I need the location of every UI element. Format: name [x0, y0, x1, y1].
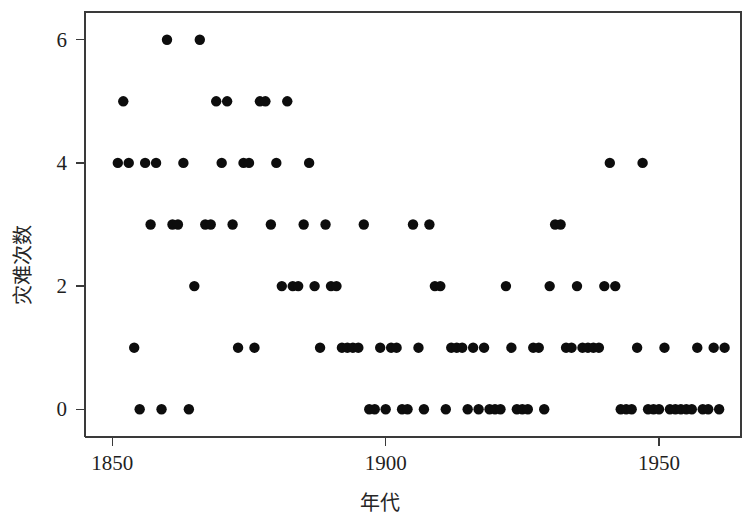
data-point	[189, 281, 199, 291]
y-axis-title: 灾难次数	[11, 225, 35, 305]
data-point	[605, 158, 615, 168]
data-point	[692, 342, 702, 352]
data-point	[506, 342, 516, 352]
data-point	[277, 281, 287, 291]
data-point	[714, 404, 724, 414]
data-point	[495, 404, 505, 414]
data-point	[539, 404, 549, 414]
data-point	[419, 404, 429, 414]
y-tick-label: 6	[57, 28, 68, 52]
data-point	[441, 404, 451, 414]
data-point	[402, 404, 412, 414]
data-point	[375, 342, 385, 352]
plot-canvas: 185019001950 0246 年代 灾难次数	[0, 0, 751, 518]
data-point	[435, 281, 445, 291]
data-point	[719, 342, 729, 352]
data-point	[227, 219, 237, 229]
data-point	[413, 342, 423, 352]
data-point	[320, 219, 330, 229]
data-point	[173, 219, 183, 229]
data-point	[555, 219, 565, 229]
y-tick-label: 2	[57, 274, 68, 298]
data-point	[473, 404, 483, 414]
data-point	[424, 219, 434, 229]
x-axis-ticks	[112, 437, 659, 446]
x-axis-tick-labels: 185019001950	[91, 451, 680, 475]
data-points-layer	[113, 35, 730, 415]
data-point	[594, 342, 604, 352]
data-point	[124, 158, 134, 168]
data-point	[293, 281, 303, 291]
data-point	[129, 342, 139, 352]
data-point	[353, 342, 363, 352]
data-point	[523, 404, 533, 414]
data-point	[216, 158, 226, 168]
data-point	[708, 342, 718, 352]
data-point	[298, 219, 308, 229]
data-point	[462, 404, 472, 414]
data-point	[659, 342, 669, 352]
data-point	[304, 158, 314, 168]
data-point	[457, 342, 467, 352]
data-point	[566, 342, 576, 352]
data-point	[244, 158, 254, 168]
data-point	[654, 404, 664, 414]
data-point	[391, 342, 401, 352]
x-tick-label: 1850	[91, 451, 133, 475]
data-point	[599, 281, 609, 291]
data-point	[145, 219, 155, 229]
data-point	[178, 158, 188, 168]
data-point	[610, 281, 620, 291]
y-tick-label: 4	[57, 151, 68, 175]
data-point	[134, 404, 144, 414]
data-point	[479, 342, 489, 352]
data-point	[632, 342, 642, 352]
data-point	[222, 96, 232, 106]
data-point	[370, 404, 380, 414]
data-point	[118, 96, 128, 106]
data-point	[151, 158, 161, 168]
data-point	[468, 342, 478, 352]
scatter-plot-figure: 185019001950 0246 年代 灾难次数	[0, 0, 751, 518]
data-point	[271, 158, 281, 168]
data-point	[315, 342, 325, 352]
data-point	[331, 281, 341, 291]
data-point	[156, 404, 166, 414]
data-point	[211, 96, 221, 106]
data-point	[534, 342, 544, 352]
x-tick-label: 1950	[638, 451, 680, 475]
data-point	[359, 219, 369, 229]
data-point	[195, 35, 205, 45]
data-point	[260, 96, 270, 106]
y-axis-tick-labels: 0246	[57, 28, 68, 422]
data-point	[113, 158, 123, 168]
y-axis-ticks	[76, 40, 85, 410]
data-point	[703, 404, 713, 414]
x-axis-title: 年代	[360, 491, 400, 515]
x-tick-label: 1900	[365, 451, 407, 475]
data-point	[140, 158, 150, 168]
data-point	[282, 96, 292, 106]
data-point	[572, 281, 582, 291]
data-point	[266, 219, 276, 229]
data-point	[380, 404, 390, 414]
data-point	[309, 281, 319, 291]
y-tick-label: 0	[57, 397, 68, 421]
data-point	[184, 404, 194, 414]
data-point	[626, 404, 636, 414]
data-point	[544, 281, 554, 291]
data-point	[637, 158, 647, 168]
data-point	[162, 35, 172, 45]
data-point	[687, 404, 697, 414]
data-point	[206, 219, 216, 229]
data-point	[501, 281, 511, 291]
data-point	[249, 342, 259, 352]
data-point	[233, 342, 243, 352]
data-point	[408, 219, 418, 229]
